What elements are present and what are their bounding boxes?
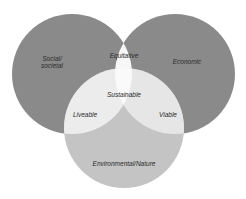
economic-label: Economic: [173, 58, 202, 65]
venn-diagram: [0, 0, 246, 199]
viable-label: Viable: [159, 111, 177, 118]
social-label: Social/ societal: [41, 55, 63, 69]
liveable-label: Liveable: [73, 111, 97, 118]
environmental-label: Environmental/Nature: [93, 160, 156, 167]
sustainable-label: Sustainable: [107, 91, 141, 98]
equitative-label: Equitative: [110, 52, 139, 59]
